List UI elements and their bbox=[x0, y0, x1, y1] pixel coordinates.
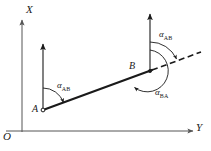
segment-ab-extension bbox=[152, 52, 201, 70]
point-marker-b bbox=[148, 69, 151, 72]
x-axis-label: X bbox=[26, 4, 33, 15]
angle-subscript: BA bbox=[160, 93, 169, 99]
angle-label-alpha-ba-at-b: αBA bbox=[155, 88, 168, 99]
azimuth-diagram: X Y O A B αAB αAB αBA bbox=[0, 0, 211, 151]
point-marker-a bbox=[41, 108, 45, 112]
point-label-b: B bbox=[129, 61, 135, 71]
diagram-canvas bbox=[0, 0, 211, 151]
point-label-a: A bbox=[32, 104, 38, 114]
y-axis-label: Y bbox=[196, 122, 202, 133]
angle-label-alpha-ab-at-b: αAB bbox=[159, 30, 172, 41]
origin-label: O bbox=[3, 131, 11, 142]
angle-subscript: AB bbox=[62, 86, 71, 92]
angle-subscript: AB bbox=[164, 35, 173, 41]
angle-label-alpha-ab-at-a: αAB bbox=[57, 81, 70, 92]
